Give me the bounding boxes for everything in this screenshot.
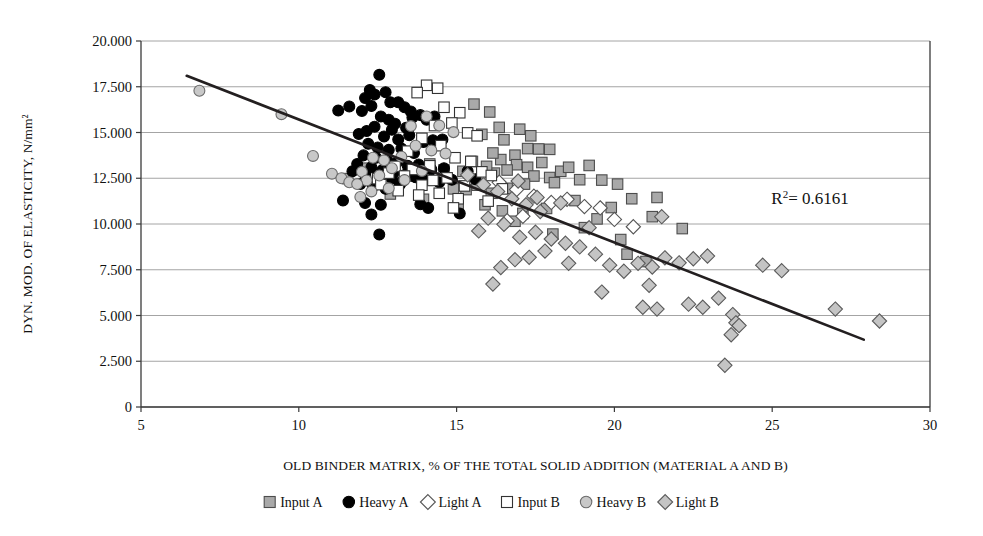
legend-label-light-b: Light B	[676, 495, 719, 510]
point-input-a	[612, 179, 623, 190]
point-input-b	[432, 83, 443, 94]
point-heavy-b	[399, 175, 410, 186]
point-input-a	[488, 148, 499, 159]
point-heavy-b	[448, 127, 459, 138]
legend-item-light-b[interactable]: Light B	[658, 495, 719, 510]
point-heavy-a	[380, 87, 391, 98]
x-axis-title: OLD BINDER MATRIX, % OF THE TOTAL SOLID …	[283, 458, 787, 473]
point-input-b	[413, 190, 424, 201]
point-input-a	[537, 157, 548, 168]
point-heavy-a	[375, 199, 386, 210]
point-heavy-b	[194, 85, 205, 96]
legend-item-light-a[interactable]: Light A	[420, 495, 482, 510]
x-tick-label: 5	[137, 417, 144, 433]
y-tick-label: 20.000	[92, 33, 132, 49]
point-heavy-b	[434, 120, 445, 131]
point-heavy-b	[440, 148, 451, 159]
point-heavy-b	[366, 186, 377, 197]
point-input-a	[514, 124, 525, 134]
point-heavy-a	[353, 129, 364, 140]
x-tick-label: 10	[292, 417, 307, 433]
point-heavy-a	[374, 229, 385, 240]
point-heavy-a	[423, 202, 434, 213]
point-input-a	[574, 174, 585, 185]
point-input-b	[466, 156, 477, 167]
legend-label-input-b: Input B	[518, 495, 560, 510]
point-input-b	[448, 203, 459, 214]
point-input-a	[533, 144, 544, 155]
point-input-a	[502, 165, 513, 176]
legend-item-input-b[interactable]: Input B	[502, 495, 560, 510]
point-input-b	[412, 87, 423, 98]
point-input-a	[563, 162, 574, 173]
point-heavy-a	[333, 105, 344, 116]
point-heavy-a	[356, 105, 367, 116]
legend-label-heavy-b: Heavy B	[597, 495, 646, 510]
y-tick-label: 2.500	[99, 353, 132, 369]
point-input-b	[434, 188, 445, 199]
point-input-a	[627, 193, 638, 204]
point-input-a	[499, 135, 510, 146]
point-input-a	[544, 144, 555, 155]
y-tick-label: 17.500	[92, 79, 132, 95]
y-tick-label: 12.500	[92, 170, 132, 186]
point-input-a	[526, 131, 537, 142]
legend-marker-heavy-b	[580, 496, 591, 507]
point-input-a	[652, 192, 663, 203]
point-heavy-b	[426, 145, 437, 156]
point-input-a	[584, 160, 595, 171]
y-tick-label: 0	[125, 399, 132, 415]
point-heavy-b	[405, 121, 416, 132]
point-input-b	[428, 175, 439, 186]
point-input-b	[472, 131, 483, 142]
point-input-b	[483, 196, 494, 207]
x-tick-label: 30	[923, 417, 938, 433]
chart-page: 02.5005.0007.50010.00012.50015.00017.500…	[0, 0, 983, 536]
legend-marker-input-a	[264, 497, 275, 508]
legend-label-light-a: Light A	[438, 495, 482, 510]
x-tick-label: 20	[607, 417, 622, 433]
chart-background	[0, 0, 983, 536]
point-input-a	[484, 107, 495, 118]
point-input-a	[677, 223, 688, 234]
point-input-a	[510, 150, 520, 161]
point-input-b	[455, 107, 466, 118]
point-heavy-a	[439, 163, 450, 174]
point-heavy-a	[338, 195, 349, 206]
y-tick-label: 7.500	[99, 262, 132, 278]
point-heavy-b	[386, 163, 397, 174]
y-tick-label: 15.000	[92, 125, 132, 141]
point-input-b	[417, 180, 428, 191]
point-input-a	[469, 99, 480, 110]
x-tick-label: 15	[449, 417, 464, 433]
point-heavy-a	[374, 69, 385, 80]
point-heavy-b	[368, 152, 379, 163]
point-heavy-b	[383, 183, 394, 194]
legend-marker-input-b	[502, 497, 513, 508]
point-heavy-a	[379, 131, 390, 142]
legend-item-input-a[interactable]: Input A	[264, 495, 323, 510]
y-axis-title: DYN. MOD. OF ELASTICITY, N/mm²	[20, 114, 35, 333]
scatter-chart: 02.5005.0007.50010.00012.50015.00017.500…	[0, 0, 983, 536]
point-heavy-b	[421, 111, 432, 122]
legend-marker-heavy-a	[343, 496, 354, 507]
point-input-b	[439, 102, 450, 113]
point-heavy-b	[352, 179, 363, 190]
point-heavy-b	[374, 170, 385, 181]
y-tick-label: 5.000	[99, 308, 132, 324]
point-input-a	[494, 122, 505, 133]
point-input-b	[486, 170, 497, 181]
x-tick-label: 25	[765, 417, 780, 433]
y-tick-label: 10.000	[92, 216, 132, 232]
point-input-a	[549, 177, 560, 188]
legend-label-input-a: Input A	[280, 495, 323, 510]
point-input-a	[622, 249, 633, 260]
point-input-a	[597, 175, 608, 186]
legend-label-heavy-a: Heavy A	[359, 495, 409, 510]
point-heavy-b	[410, 140, 421, 151]
point-input-a	[522, 143, 533, 154]
point-heavy-b	[355, 191, 366, 202]
point-heavy-b	[308, 150, 319, 161]
point-heavy-a	[366, 209, 377, 220]
point-heavy-a	[344, 101, 355, 112]
